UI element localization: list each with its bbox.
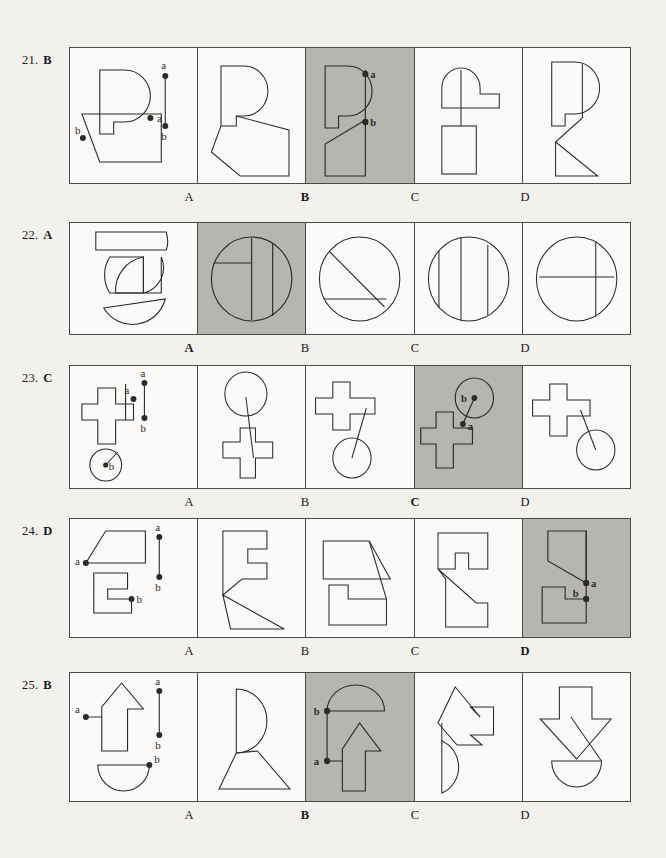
prompt-label-a-21: a (157, 112, 162, 124)
question-index-22: 22. (22, 228, 38, 242)
option-cell-22-c[interactable] (415, 223, 523, 334)
option-cell-24-b[interactable] (306, 519, 414, 637)
segment-label-a-24: a (155, 521, 160, 533)
option-cell-23-a[interactable] (198, 366, 306, 488)
option-cell-25-d[interactable] (523, 673, 630, 801)
option-label-21-a: A (128, 190, 250, 205)
question-index-23: 23. (22, 371, 38, 385)
question-strip-25: a a b b (69, 672, 631, 802)
option-labels-24: A B C D (69, 644, 631, 664)
option-d-label-a-24: a (591, 577, 597, 589)
question-index-21: 21. (22, 53, 38, 67)
option-cell-25-b[interactable]: b a (306, 673, 414, 801)
option-cell-23-c[interactable]: b a (415, 366, 523, 488)
option-cell-25-c[interactable] (415, 673, 523, 801)
question-row-25: 25.B a a b b (0, 672, 666, 842)
question-number-23: 23.C (22, 371, 52, 386)
option-c-label-a-23: a (467, 420, 473, 432)
question-number-21: 21.B (22, 53, 52, 68)
option-cell-21-b[interactable]: a b (306, 48, 414, 183)
question-number-22: 22.A (22, 228, 52, 243)
option-d-label-b-24: b (573, 587, 579, 599)
question-row-22: 22.A (0, 222, 666, 382)
segment-label-a-23: a (140, 367, 145, 379)
option-label-22-d: D (470, 341, 580, 356)
option-b-label-a-21: a (370, 68, 376, 80)
option-label-22-c: C (360, 341, 470, 356)
question-answer-24: D (43, 524, 52, 538)
question-number-24: 24.D (22, 524, 52, 539)
segment-label-b-25: b (155, 739, 161, 751)
option-cell-23-b[interactable] (306, 366, 414, 488)
option-cell-24-d[interactable]: a b (523, 519, 630, 637)
option-cell-23-d[interactable] (523, 366, 630, 488)
option-b-label-b-25: b (314, 705, 320, 717)
option-label-21-c: C (360, 190, 470, 205)
segment-a-dot-21 (162, 73, 168, 79)
prompt-cell-22 (70, 223, 198, 334)
option-label-22-b: B (250, 341, 360, 356)
option-cell-22-b[interactable] (306, 223, 414, 334)
point-b-marker-21 (80, 135, 86, 141)
question-answer-23: C (43, 371, 52, 385)
option-b-label-b-21: b (370, 116, 376, 128)
prompt-label-b-25: b (154, 753, 160, 765)
segment-label-b-24: b (155, 581, 161, 593)
point-a-marker-21 (147, 115, 153, 121)
option-cell-21-a[interactable] (198, 48, 306, 183)
question-strip-21: a a b b (69, 47, 631, 184)
option-labels-25: A B C D (69, 808, 631, 828)
question-row-24: 24.D a a b b (0, 518, 666, 678)
question-answer-21: B (43, 53, 52, 67)
option-cell-21-c[interactable] (415, 48, 523, 183)
option-b-label-a-25: a (314, 755, 320, 767)
option-label-22-a: A (128, 341, 250, 356)
prompt-label-a-25: a (75, 703, 80, 715)
option-label-24-d: D (470, 644, 580, 659)
prompt-label-b-24: b (136, 593, 142, 605)
segment-b-dot-21 (162, 123, 168, 129)
option-cell-25-a[interactable] (198, 673, 306, 801)
option-label-23-d: D (470, 495, 580, 510)
option-cell-21-d[interactable] (523, 48, 630, 183)
option-labels-22: A B C D (69, 341, 631, 361)
prompt-cell-21: a a b b (70, 48, 198, 183)
test-page: 21.B a a (0, 0, 666, 858)
question-answer-22: A (43, 228, 52, 242)
option-label-23-b: B (250, 495, 360, 510)
question-answer-25: B (43, 678, 52, 692)
prompt-label-a-23: a (125, 384, 130, 396)
option-cell-22-d[interactable] (523, 223, 630, 334)
option-labels-21: A B C D (69, 190, 631, 210)
question-index-25: 25. (22, 678, 38, 692)
prompt-cell-25: a a b b (70, 673, 198, 801)
option-label-23-c: C (360, 495, 470, 510)
segment-label-b-21: b (161, 130, 167, 142)
segment-label-b-23: b (140, 422, 146, 434)
option-label-25-c: C (360, 808, 470, 823)
question-strip-24: a a b b (69, 518, 631, 638)
question-strip-22 (69, 222, 631, 335)
prompt-label-a-24: a (75, 555, 80, 567)
question-index-24: 24. (22, 524, 38, 538)
option-label-25-d: D (470, 808, 580, 823)
option-labels-23: A B C D (69, 495, 631, 515)
prompt-label-b-23: b (109, 460, 115, 472)
prompt-cell-23: a a b b (70, 366, 198, 488)
option-label-21-d: D (470, 190, 580, 205)
prompt-cell-24: a a b b (70, 519, 198, 637)
option-cell-24-a[interactable] (198, 519, 306, 637)
option-cell-22-a[interactable] (198, 223, 306, 334)
option-label-25-a: A (128, 808, 250, 823)
option-label-24-b: B (250, 644, 360, 659)
option-cell-24-c[interactable] (415, 519, 523, 637)
question-number-25: 25.B (22, 678, 52, 693)
question-strip-23: a a b b (69, 365, 631, 489)
option-c-label-b-23: b (460, 392, 466, 404)
option-label-25-b: B (250, 808, 360, 823)
option-label-23-a: A (128, 495, 250, 510)
segment-label-a-21: a (161, 59, 166, 71)
question-row-21: 21.B a a (0, 47, 666, 207)
question-row-23: 23.C a a b (0, 365, 666, 525)
option-label-24-a: A (128, 644, 250, 659)
